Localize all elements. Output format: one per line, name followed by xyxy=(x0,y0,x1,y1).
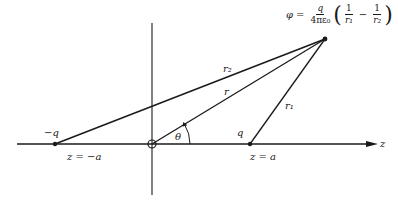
field-point-dot xyxy=(323,37,328,42)
term1-denominator: r₁ xyxy=(344,15,354,26)
neg-position-label: z = −a xyxy=(67,152,101,162)
r1-line xyxy=(250,39,325,144)
prefactor-denominator: 4πε₀ xyxy=(309,15,331,26)
term1-numerator: 1 xyxy=(345,3,353,15)
equals-sign: = xyxy=(296,9,304,20)
pos-charge-label: q xyxy=(237,128,243,138)
pos-position-label: z = a xyxy=(250,152,276,162)
theta-arc xyxy=(185,125,190,145)
left-paren: ( xyxy=(333,4,342,26)
prefactor-numerator: q xyxy=(316,3,324,15)
dipole-diagram xyxy=(0,0,398,204)
potential-formula: φ = q 4πε₀ ( 1 r₁ − 1 r₂ ) xyxy=(286,3,393,26)
neg-charge-label: −q xyxy=(44,128,59,138)
minus-sign: − xyxy=(359,9,367,20)
r1-label: r₁ xyxy=(285,101,294,111)
r2-label: r₂ xyxy=(223,64,232,74)
neg-charge-dot xyxy=(53,142,57,146)
right-paren: ) xyxy=(384,4,393,26)
term1-fraction: 1 r₁ xyxy=(344,3,354,26)
z-axis-arrow-icon xyxy=(366,141,378,147)
pos-charge-dot xyxy=(248,142,252,146)
prefactor-fraction: q 4πε₀ xyxy=(309,3,331,26)
r-label: r xyxy=(224,87,229,97)
phi-symbol: φ xyxy=(286,9,293,20)
z-axis-label: z xyxy=(380,139,385,149)
theta-label: θ xyxy=(175,132,181,142)
term2-numerator: 1 xyxy=(373,3,381,15)
term2-fraction: 1 r₂ xyxy=(372,3,382,26)
r2-line xyxy=(55,39,325,144)
term2-denominator: r₂ xyxy=(372,15,382,26)
